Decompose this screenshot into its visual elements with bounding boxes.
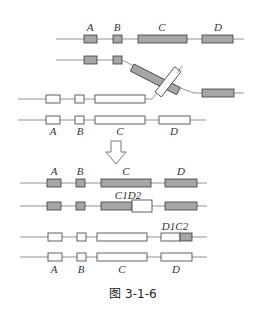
label-d1c2: D1C2 xyxy=(161,220,189,232)
chromosome-gray-normal xyxy=(20,179,207,187)
label-d-top: D xyxy=(213,21,222,33)
label-a-final: A xyxy=(50,263,58,275)
chromosome-white-2 xyxy=(18,116,206,124)
label-d-after: D xyxy=(176,165,185,177)
label-c-final: C xyxy=(118,263,126,275)
chromosome-white-recombinant xyxy=(20,233,207,241)
chromosome-gray-2-crossing xyxy=(56,56,244,97)
label-d-pre: D xyxy=(169,125,178,137)
down-arrow-icon xyxy=(106,141,126,164)
chromosome-gray-recombinant xyxy=(20,200,207,212)
figure-caption: 图 3-1-6 xyxy=(109,287,156,301)
label-b-final: B xyxy=(78,263,85,275)
label-c1d2: C1D2 xyxy=(115,189,142,201)
label-d-final: D xyxy=(171,263,180,275)
label-a-after: A xyxy=(50,165,58,177)
label-a-pre: A xyxy=(49,125,57,137)
label-b-after: B xyxy=(77,165,84,177)
label-c-pre: C xyxy=(116,125,124,137)
label-b-pre: B xyxy=(77,125,84,137)
label-b-top: B xyxy=(114,21,121,33)
chromosome-white-normal xyxy=(20,253,207,261)
label-a-top: A xyxy=(86,21,94,33)
unequal-crossover-diagram: A B C D A B xyxy=(0,0,262,316)
chromosome-gray-1 xyxy=(56,35,244,43)
label-c-top: C xyxy=(158,21,166,33)
label-c-after: C xyxy=(122,165,130,177)
